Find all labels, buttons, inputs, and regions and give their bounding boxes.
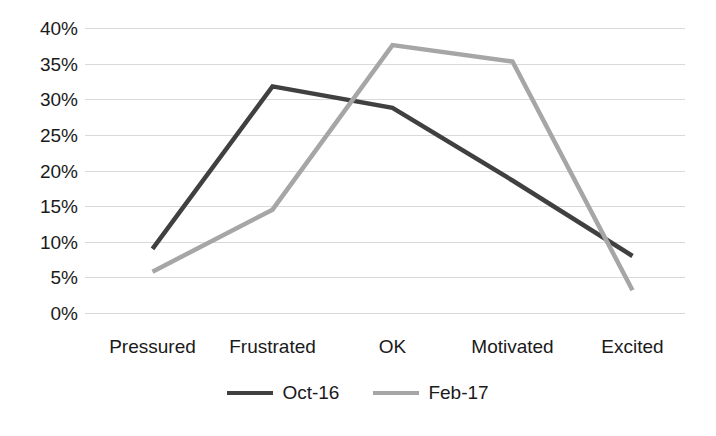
series-line-feb-17 [153, 45, 633, 290]
y-tick-label: 20% [0, 162, 78, 181]
x-tick-label: Motivated [471, 336, 553, 358]
line-chart: 40%35%30%25%20%15%10%5%0% PressuredFrust… [0, 0, 716, 436]
y-tick-label: 5% [0, 268, 78, 287]
y-tick-label: 35% [0, 55, 78, 74]
gridline [85, 313, 685, 314]
legend: Oct-16Feb-17 [0, 383, 716, 402]
y-tick-label: 25% [0, 126, 78, 145]
legend-item[interactable]: Feb-17 [373, 383, 488, 402]
plot-area [85, 28, 685, 313]
y-tick-label: 10% [0, 233, 78, 252]
x-tick-label: Frustrated [229, 336, 316, 358]
legend-label: Feb-17 [428, 383, 488, 402]
series-line-oct-16 [153, 86, 633, 256]
x-axis: PressuredFrustratedOKMotivatedExcited [85, 336, 685, 366]
series-layer [85, 28, 685, 313]
legend-swatch-icon [227, 391, 273, 395]
y-tick-label: 15% [0, 197, 78, 216]
y-axis: 40%35%30%25%20%15%10%5%0% [0, 0, 78, 340]
y-tick-label: 0% [0, 304, 78, 323]
legend-label: Oct-16 [282, 383, 339, 402]
legend-swatch-icon [373, 391, 419, 395]
x-tick-label: Pressured [109, 336, 196, 358]
x-tick-label: Excited [601, 336, 663, 358]
y-tick-label: 30% [0, 90, 78, 109]
x-tick-label: OK [379, 336, 406, 358]
legend-item[interactable]: Oct-16 [227, 383, 339, 402]
y-tick-label: 40% [0, 19, 78, 38]
